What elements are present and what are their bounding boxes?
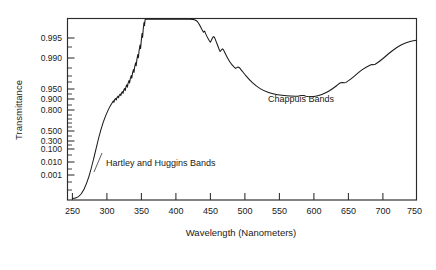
y-tick-label: 0.900 [41, 94, 63, 104]
y-tick-label: 0.010 [41, 157, 63, 167]
x-tick-label: 300 [99, 206, 114, 216]
y-tick-label: 0.800 [41, 105, 63, 115]
x-tick-label: 250 [65, 206, 80, 216]
y-axis-labels: 0.995 0.990 0.950 0.900 0.800 0.500 0.30… [41, 33, 63, 180]
ozone-transmittance-chart: 0.995 0.990 0.950 0.900 0.800 0.500 0.30… [0, 0, 436, 270]
y-tick-label: 0.500 [41, 126, 63, 136]
x-tick-label: 450 [203, 206, 218, 216]
x-tick-label: 750 [407, 206, 422, 216]
x-tick-label: 600 [306, 206, 321, 216]
annotation-hartley-huggins: Hartley and Huggins Bands [106, 158, 216, 168]
annotation-chappuis: Chappuis Bands [268, 94, 335, 104]
x-tick-label: 400 [168, 206, 183, 216]
x-tick-label: 650 [341, 206, 356, 216]
x-tick-label: 700 [375, 206, 390, 216]
y-tick-label: 0.001 [41, 170, 63, 180]
x-tick-label: 350 [134, 206, 149, 216]
y-tick-label: 0.995 [41, 33, 63, 43]
y-tick-label: 0.100 [41, 144, 63, 154]
x-axis-title: Wavelength (Nanometers) [186, 227, 297, 238]
y-tick-label: 0.950 [41, 84, 63, 94]
y-tick-label: 0.990 [41, 53, 63, 63]
y-axis-title: Transmittance [13, 80, 24, 140]
x-tick-label: 550 [272, 206, 287, 216]
chart-svg: 0.995 0.990 0.950 0.900 0.800 0.500 0.30… [0, 0, 436, 270]
x-tick-label: 500 [237, 206, 252, 216]
